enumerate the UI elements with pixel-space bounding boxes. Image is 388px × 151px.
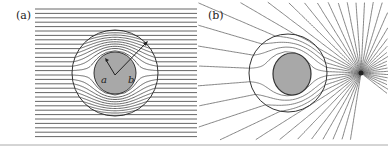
- field-line: [323, 73, 361, 139]
- inner-core: [273, 53, 311, 95]
- radius-b-label: b: [128, 74, 134, 85]
- panel-a: [35, 9, 197, 137]
- radius-a-label: a: [101, 74, 107, 85]
- flow-line: [35, 115, 197, 116]
- point-source: [359, 71, 364, 76]
- field-line: [356, 3, 361, 73]
- panel-b-label: (b): [208, 9, 224, 22]
- flow-line: [35, 37, 197, 44]
- field-line: [333, 73, 361, 139]
- inner-core: [94, 52, 136, 94]
- field-line: [361, 13, 388, 73]
- panel-b: [198, 2, 388, 140]
- field-line: [305, 3, 362, 73]
- field-line: [328, 2, 361, 73]
- field-line: [312, 73, 361, 139]
- flow-line: [35, 31, 197, 32]
- flow-line: [35, 101, 197, 108]
- figure: (a) (b) a b: [0, 0, 388, 151]
- panel-a-label: (a): [16, 9, 31, 22]
